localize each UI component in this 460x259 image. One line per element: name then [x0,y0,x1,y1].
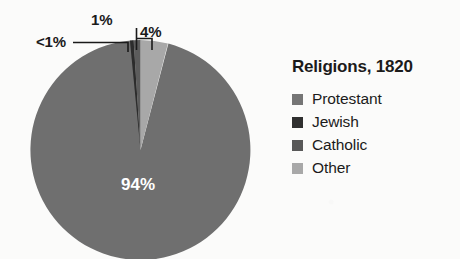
pie-callout-other: 4% [140,23,161,40]
legend-swatch-jewish [292,117,303,128]
legend-item-other[interactable]: Other [292,158,454,178]
chart-title: Religions, 1820 [292,58,454,77]
legend-swatch-catholic [292,140,303,151]
legend-label-other: Other [312,160,350,176]
legend-swatch-other [292,163,303,174]
legend-item-protestant[interactable]: Protestant [292,89,454,109]
pie-callout-catholic: 1% [91,11,112,28]
chart-legend: Religions, 1820 Protestant Jewish Cathol… [292,58,454,181]
pie-slice-label-protestant: 94% [121,175,155,194]
pie-callout-jewish: <1% [36,33,66,50]
legend-label-jewish: Jewish [312,114,359,130]
legend-item-jewish[interactable]: Jewish [292,112,454,132]
legend-label-catholic: Catholic [312,137,367,153]
pie-chart-figure: 94% <1% 1% 4% [0,0,282,259]
legend-swatch-protestant [292,94,303,105]
legend-label-protestant: Protestant [312,91,382,107]
chart-page: 94% <1% 1% 4% Religions, 1820 Protestant… [0,0,460,259]
legend-item-catholic[interactable]: Catholic [292,135,454,155]
